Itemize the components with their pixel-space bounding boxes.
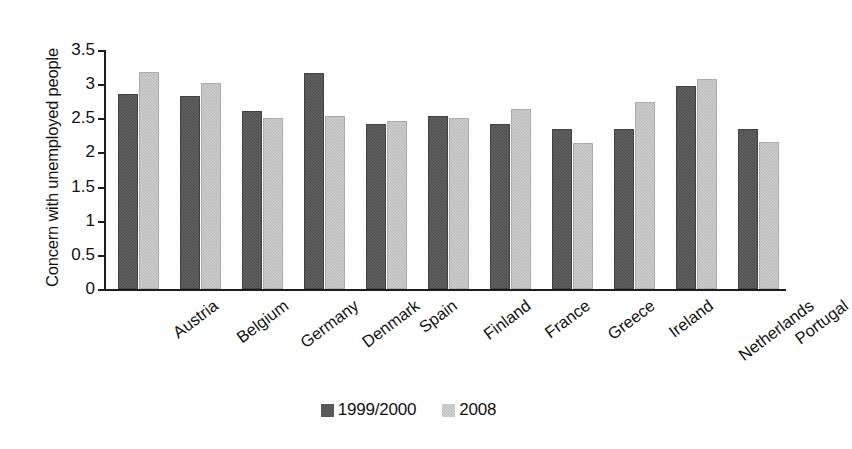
x-axis-label: Greece [604, 296, 659, 344]
bar [201, 83, 221, 289]
y-tick-label: 0.5 [71, 245, 95, 265]
x-axis-label: Belgium [233, 296, 292, 347]
y-tick-mark [98, 221, 105, 223]
bar [118, 94, 138, 289]
bar [449, 118, 469, 289]
legend-entry: 1999/2000 [321, 400, 417, 420]
y-tick-label: 0 [86, 279, 95, 299]
bar-group [180, 50, 221, 289]
bar-group [490, 50, 531, 289]
bar-group [304, 50, 345, 289]
x-axis-label: Austria [169, 296, 221, 342]
bar [242, 111, 262, 289]
x-axis-label: Germany [297, 296, 363, 352]
x-axis-category-labels: AustriaBelgiumGermanyDenmarkSpainFinland… [104, 296, 786, 386]
legend-swatch-icon [321, 404, 334, 417]
bar [676, 86, 696, 289]
x-axis-label: France [541, 296, 593, 342]
plot-area: 00.511.522.533.5 [104, 50, 786, 290]
bar [428, 116, 448, 289]
x-axis-label: Ireland [665, 296, 717, 342]
bar-group [428, 50, 469, 289]
bar-group [676, 50, 717, 289]
legend-label: 2008 [459, 400, 496, 420]
bar-group [614, 50, 655, 289]
bar [325, 116, 345, 289]
x-axis-label: Spain [415, 296, 460, 337]
bar-group [366, 50, 407, 289]
x-axis-label: Finland [480, 296, 535, 344]
bar [180, 96, 200, 289]
bar-group [242, 50, 283, 289]
y-tick-label: 3.5 [71, 40, 95, 60]
bar [759, 142, 779, 289]
chart-legend: 1999/20002008 [0, 400, 817, 420]
legend-entry: 2008 [442, 400, 496, 420]
bar [614, 129, 634, 289]
y-tick-label: 2 [86, 142, 95, 162]
bar [366, 124, 386, 289]
bar [139, 72, 159, 289]
bar [263, 118, 283, 289]
y-tick-label: 1.5 [71, 177, 95, 197]
y-tick-label: 3 [86, 74, 95, 94]
y-tick-mark [98, 118, 105, 120]
x-axis-label: Denmark [358, 296, 423, 351]
y-tick-mark [98, 289, 105, 291]
legend-label: 1999/2000 [338, 400, 417, 420]
bar [635, 102, 655, 289]
y-tick-label: 2.5 [71, 108, 95, 128]
y-tick-mark [98, 84, 105, 86]
bar-group [118, 50, 159, 289]
bar [490, 124, 510, 289]
y-tick-mark [98, 255, 105, 257]
bar [552, 129, 572, 289]
y-tick-mark [98, 152, 105, 154]
bar [738, 129, 758, 289]
bar [511, 109, 531, 289]
bar-group [738, 50, 779, 289]
bar [573, 143, 593, 289]
bar [697, 79, 717, 289]
bar [304, 73, 324, 289]
y-axis-title: Concern with unemployed people [43, 18, 62, 318]
y-tick-label: 1 [86, 211, 95, 231]
bar-group [552, 50, 593, 289]
y-tick-mark [98, 50, 105, 52]
y-tick-mark [98, 187, 105, 189]
x-axis-line [104, 289, 786, 291]
bar [387, 121, 407, 289]
legend-swatch-icon [442, 404, 455, 417]
